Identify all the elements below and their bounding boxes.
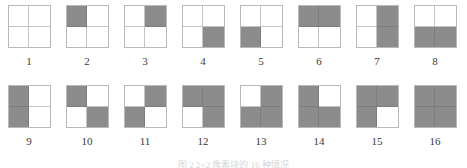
quadrant-top-left-filled [67, 6, 88, 27]
pattern-number-label: 2 [84, 55, 90, 67]
pattern-square-6 [298, 5, 341, 48]
quadrant-top-right-filled [377, 6, 398, 27]
pattern-number-label: 3 [142, 55, 148, 67]
quadrant-top-left-empty [125, 86, 146, 107]
quadrant-top-left-empty [357, 6, 378, 27]
pattern-square-7 [356, 5, 399, 48]
quadrant-top-right-empty [261, 6, 282, 27]
quadrant-top-right-empty [319, 86, 340, 107]
quadrant-top-right-filled [319, 6, 340, 27]
quadrant-bottom-left-filled [415, 107, 436, 128]
quadrant-bottom-left-empty [67, 107, 88, 128]
quadrant-bottom-right-filled [203, 107, 224, 128]
pattern-cell-4: 4 [174, 5, 232, 67]
pattern-cell-6: 6 [290, 5, 348, 67]
quadrant-top-left-filled [67, 86, 88, 107]
pattern-cell-15: 15 [348, 85, 406, 147]
pattern-square-2 [66, 5, 109, 48]
pattern-number-label: 5 [258, 55, 264, 67]
quadrant-bottom-right-filled [87, 107, 108, 128]
quadrant-top-left-filled [415, 86, 436, 107]
quadrant-top-right-empty [29, 86, 50, 107]
pattern-cell-14: 14 [290, 85, 348, 147]
quadrant-top-left-filled [299, 6, 320, 27]
pattern-number-label: 11 [140, 135, 151, 147]
quadrant-top-left-empty [125, 6, 146, 27]
quadrant-bottom-left-filled [241, 107, 262, 128]
quadrant-top-right-empty [87, 86, 108, 107]
pattern-number-label: 10 [82, 135, 93, 147]
pattern-number-label: 14 [314, 135, 325, 147]
quadrant-top-right-filled [435, 86, 456, 107]
pattern-cell-1: 1 [0, 5, 58, 67]
quadrant-bottom-right-empty [261, 27, 282, 48]
quadrant-bottom-left-filled [299, 107, 320, 128]
quadrant-bottom-left-empty [299, 27, 320, 48]
quadrant-top-left-filled [299, 86, 320, 107]
pattern-square-9 [8, 85, 51, 128]
pattern-square-12 [182, 85, 225, 128]
quadrant-bottom-right-filled [261, 107, 282, 128]
quadrant-top-left-empty [9, 6, 30, 27]
pattern-square-5 [240, 5, 283, 48]
quadrant-top-right-filled [261, 86, 282, 107]
pattern-cell-12: 12 [174, 85, 232, 147]
quadrant-top-right-filled [145, 86, 166, 107]
pattern-number-label: 1 [26, 55, 32, 67]
pattern-cell-11: 11 [116, 85, 174, 147]
quadrant-bottom-right-empty [29, 107, 50, 128]
quadrant-bottom-right-filled [435, 107, 456, 128]
pattern-number-label: 16 [430, 135, 441, 147]
pattern-row-bottom: 910111213141516 [0, 85, 467, 147]
quadrant-bottom-left-empty [9, 27, 30, 48]
quadrant-top-left-empty [415, 6, 436, 27]
quadrant-top-left-empty [183, 6, 204, 27]
pattern-square-8 [414, 5, 457, 48]
quadrant-bottom-left-empty [183, 27, 204, 48]
pattern-cell-2: 2 [58, 5, 116, 67]
pattern-number-label: 13 [256, 135, 267, 147]
pattern-number-label: 7 [374, 55, 380, 67]
quadrant-bottom-right-empty [377, 107, 398, 128]
pattern-square-1 [8, 5, 51, 48]
quadrant-bottom-right-filled [319, 107, 340, 128]
quadrant-bottom-left-empty [183, 107, 204, 128]
pattern-cell-8: 8 [406, 5, 464, 67]
quadrant-top-left-filled [9, 86, 30, 107]
quadrant-bottom-left-filled [125, 107, 146, 128]
pattern-cell-16: 16 [406, 85, 464, 147]
pattern-number-label: 12 [198, 135, 209, 147]
quadrant-bottom-right-empty [87, 27, 108, 48]
figure-16-pixel-patterns: 12345678 910111213141516 图 2 2×2 像素块的 16… [0, 0, 467, 168]
quadrant-bottom-left-filled [9, 107, 30, 128]
quadrant-bottom-left-filled [357, 107, 378, 128]
quadrant-top-right-filled [203, 86, 224, 107]
pattern-number-label: 6 [316, 55, 322, 67]
quadrant-top-right-filled [377, 86, 398, 107]
pattern-number-label: 9 [26, 135, 32, 147]
pattern-cell-10: 10 [58, 85, 116, 147]
pattern-square-10 [66, 85, 109, 128]
pattern-cell-5: 5 [232, 5, 290, 67]
quadrant-top-left-empty [241, 86, 262, 107]
pattern-square-15 [356, 85, 399, 128]
quadrant-bottom-right-filled [203, 27, 224, 48]
pattern-square-4 [182, 5, 225, 48]
quadrant-bottom-right-filled [377, 27, 398, 48]
quadrant-bottom-left-empty [67, 27, 88, 48]
quadrant-top-left-empty [241, 6, 262, 27]
quadrant-top-left-filled [183, 86, 204, 107]
pattern-number-label: 4 [200, 55, 206, 67]
pattern-cell-9: 9 [0, 85, 58, 147]
figure-caption: 图 2 2×2 像素块的 16 种情况 [0, 160, 467, 168]
pattern-number-label: 8 [432, 55, 438, 67]
quadrant-bottom-right-empty [29, 27, 50, 48]
quadrant-top-left-filled [357, 86, 378, 107]
quadrant-bottom-right-empty [145, 27, 166, 48]
quadrant-top-right-empty [29, 6, 50, 27]
quadrant-bottom-left-empty [357, 27, 378, 48]
quadrant-top-right-empty [87, 6, 108, 27]
pattern-number-label: 15 [372, 135, 383, 147]
quadrant-bottom-left-filled [415, 27, 436, 48]
quadrant-top-right-empty [435, 6, 456, 27]
